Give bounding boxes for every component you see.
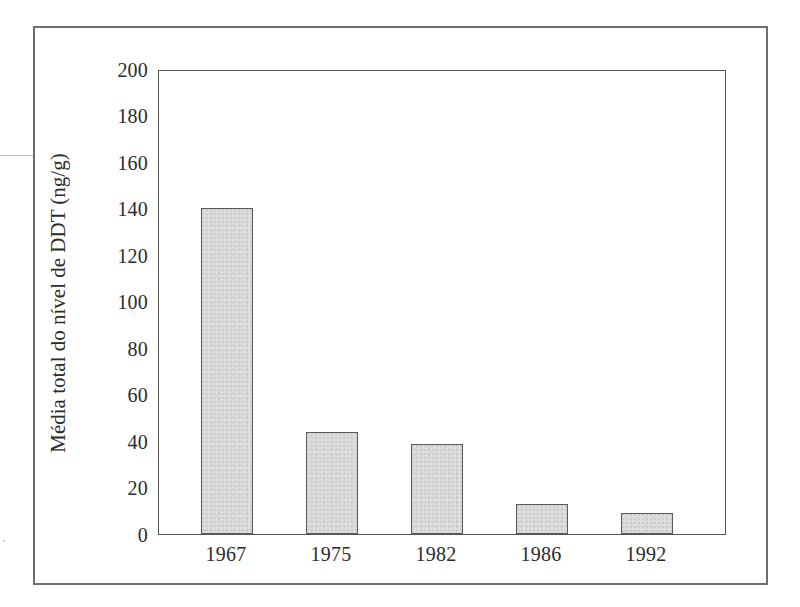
x-tick-label-1992: 1992: [586, 543, 706, 565]
y-tick-label-140: 140: [88, 199, 148, 219]
y-tick-label-40: 40: [88, 432, 148, 452]
x-tick-label-1982: 1982: [376, 543, 496, 565]
y-tick-label-200: 200: [88, 60, 148, 80]
y-tick-label-0: 0: [88, 525, 148, 545]
y-tick-label-80: 80: [88, 339, 148, 359]
bar-1982: [411, 444, 463, 534]
y-tick-label-120: 120: [88, 246, 148, 266]
bar-1986: [516, 504, 568, 534]
y-tick-label-60: 60: [88, 385, 148, 405]
bars-layer: [159, 71, 725, 534]
y-axis-title: Média total do nível de DDT (ng/g): [46, 93, 70, 513]
y-tick-label-20: 20: [88, 478, 148, 498]
x-tick-label-1986: 1986: [481, 543, 601, 565]
bar-1967: [201, 208, 253, 534]
y-tick-label-100: 100: [88, 292, 148, 312]
x-tick-label-1975: 1975: [271, 543, 391, 565]
bar-1975: [306, 432, 358, 534]
bar-chart: Média total do nível de DDT (ng/g) 200 1…: [0, 0, 800, 607]
y-tick-label-160: 160: [88, 153, 148, 173]
plot-area: [158, 70, 726, 535]
bar-1992: [621, 513, 673, 534]
x-tick-label-1967: 1967: [166, 543, 286, 565]
y-tick-label-180: 180: [88, 106, 148, 126]
